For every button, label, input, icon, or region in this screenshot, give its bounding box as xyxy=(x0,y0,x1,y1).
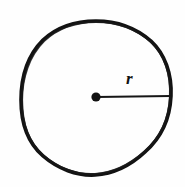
radius-line xyxy=(96,96,171,97)
center-dot xyxy=(91,92,100,101)
circle-diagram: r xyxy=(0,0,185,187)
radius-label: r xyxy=(126,70,133,87)
circle-diagram-svg xyxy=(0,0,185,187)
